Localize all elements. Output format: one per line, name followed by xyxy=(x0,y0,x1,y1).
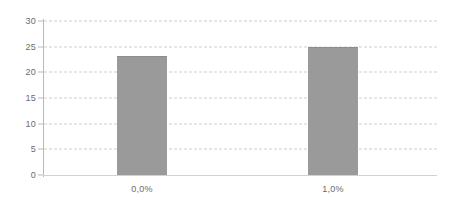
gridline xyxy=(44,149,437,150)
y-axis-tick-label: 25 xyxy=(14,42,36,51)
y-axis-tick-label: 5 xyxy=(14,145,36,154)
x-axis-tick-label: 1,0% xyxy=(322,185,343,194)
y-axis-tick-label: 15 xyxy=(14,94,36,103)
x-axis-baseline xyxy=(43,175,437,176)
bar[interactable] xyxy=(117,56,167,175)
gridline xyxy=(44,46,437,47)
x-axis-tick-label: 0,0% xyxy=(131,185,152,194)
y-axis-tick-label: 20 xyxy=(14,68,36,77)
gridline xyxy=(44,72,437,73)
gridline xyxy=(44,21,437,22)
bar[interactable] xyxy=(308,47,358,175)
y-axis-tick-labels: 302520151050 xyxy=(14,0,36,209)
y-axis-tick-label: 0 xyxy=(14,171,36,180)
y-axis-tick-label: 10 xyxy=(14,119,36,128)
gridline xyxy=(44,98,437,99)
gridline xyxy=(44,123,437,124)
bar-chart: 302520151050 0,0%1,0% xyxy=(0,0,450,209)
y-axis-tick-label: 30 xyxy=(14,17,36,26)
y-axis-line xyxy=(43,19,44,177)
